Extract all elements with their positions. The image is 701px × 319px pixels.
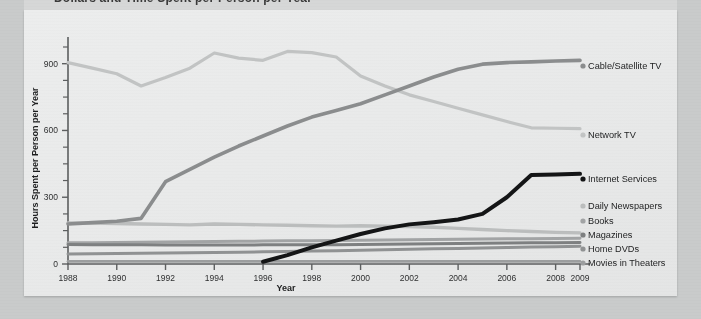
- chart-page: Dollars and Time Spent per Person per Ye…: [0, 0, 701, 319]
- legend-label-daily-newspapers[interactable]: Daily Newspapers: [588, 201, 662, 211]
- x-tick-label: 2008: [546, 273, 565, 283]
- legend-label-home-dvds[interactable]: Home DVDs: [588, 244, 639, 254]
- x-tick-label: 2004: [449, 273, 468, 283]
- series-group: [68, 51, 580, 261]
- series-line-home-dvds: [68, 246, 580, 254]
- legend-label-movies-in-theaters[interactable]: Movies in Theaters: [588, 258, 666, 268]
- legend-label-internet-services[interactable]: Internet Services: [588, 174, 657, 184]
- legend-marker-books: [580, 218, 585, 223]
- x-tick-label: 1998: [302, 273, 321, 283]
- line-chart: 1988199019921994199619982000200220042006…: [24, 10, 677, 296]
- y-tick-label: 0: [53, 259, 58, 269]
- x-tick-labels: 1988199019921994199619982000200220042006…: [59, 273, 590, 283]
- legend-marker-daily-newspapers: [580, 203, 585, 208]
- legend-marker-network-tv: [580, 132, 585, 137]
- y-tick-labels: 0300600900: [44, 59, 58, 269]
- legend-marker-movies-in-theaters: [580, 260, 585, 265]
- legend-marker-magazines: [580, 232, 585, 237]
- series-line-daily-newspapers: [68, 223, 580, 233]
- x-axis-title: Year: [276, 283, 296, 293]
- chart-legend: Cable/Satellite TVNetwork TVInternet Ser…: [580, 61, 665, 268]
- axes-group: [62, 37, 590, 270]
- legend-label-books[interactable]: Books: [588, 216, 614, 226]
- chart-container: 1988199019921994199619982000200220042006…: [24, 10, 677, 296]
- page-header-strip: Dollars and Time Spent per Person per Ye…: [24, 0, 677, 10]
- x-tick-label: 1990: [107, 273, 126, 283]
- x-tick-label: 2000: [351, 273, 370, 283]
- x-tick-label: 2006: [497, 273, 516, 283]
- x-tick-label: 1992: [156, 273, 175, 283]
- y-axis-title: Hours Spent per Person per Year: [30, 87, 40, 228]
- y-tick-label: 300: [44, 192, 58, 202]
- x-tick-label: 1988: [59, 273, 78, 283]
- legend-label-cable-satellite-tv[interactable]: Cable/Satellite TV: [588, 61, 662, 71]
- legend-marker-home-dvds: [580, 246, 585, 251]
- legend-marker-internet-services: [580, 176, 585, 181]
- y-tick-label: 600: [44, 125, 58, 135]
- x-tick-label: 2009: [571, 273, 590, 283]
- page-header-text: Dollars and Time Spent per Person per Ye…: [54, 0, 312, 5]
- x-tick-label: 1994: [205, 273, 224, 283]
- legend-marker-cable-satellite-tv: [580, 63, 585, 68]
- x-tick-label: 1996: [254, 273, 273, 283]
- legend-label-magazines[interactable]: Magazines: [588, 230, 633, 240]
- y-tick-label: 900: [44, 59, 58, 69]
- x-tick-label: 2002: [400, 273, 419, 283]
- legend-label-network-tv[interactable]: Network TV: [588, 130, 637, 140]
